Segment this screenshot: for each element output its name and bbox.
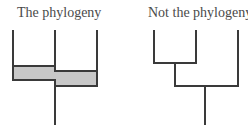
true-phylogeny-tree: [13, 30, 97, 125]
alternative-tree: [153, 30, 239, 125]
phylogeny-diagrams: [0, 0, 248, 131]
